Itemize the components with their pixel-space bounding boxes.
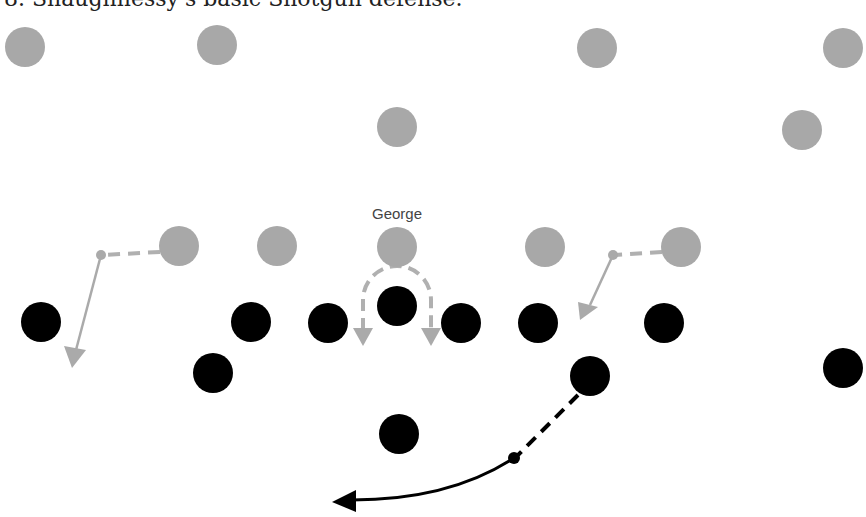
defender-2 [577, 28, 617, 68]
arrow-head-right-icon [578, 302, 598, 320]
route-dash-right [615, 252, 662, 255]
offensive-player-5 [518, 303, 558, 343]
offensive-player-3 [377, 286, 417, 326]
route-line-right [590, 255, 613, 305]
offensive-player-2 [308, 303, 348, 343]
play-diagram: George [0, 0, 866, 517]
arrow-head-offense-icon [332, 490, 356, 512]
route-dash-offense [518, 395, 578, 455]
route-curve-offense [352, 458, 514, 500]
defender-0 [5, 27, 45, 67]
arrow-head-left-icon [64, 346, 86, 368]
defender-4 [377, 107, 417, 147]
defense-players [5, 25, 863, 267]
offensive-player-6 [644, 303, 684, 343]
offensive-player-7 [193, 353, 233, 393]
defender-10 [661, 227, 701, 267]
offensive-player-4 [441, 303, 481, 343]
defender-6 [159, 226, 199, 266]
defender-1 [197, 25, 237, 65]
offensive-player-1 [231, 302, 271, 342]
route-dash-left [102, 252, 160, 255]
arrow-head-george-right-icon [421, 328, 441, 346]
offense-players [21, 286, 863, 454]
defender-9 [525, 227, 565, 267]
defender-3 [823, 28, 863, 68]
offensive-player-10 [379, 414, 419, 454]
offensive-player-0 [21, 302, 61, 342]
offensive-player-8 [570, 356, 610, 396]
defender-5 [782, 110, 822, 150]
route-line-left [76, 255, 101, 350]
player-label-george: George [372, 205, 422, 222]
defender-george [377, 227, 417, 267]
defense-routes [64, 250, 662, 368]
arrow-head-george-left-icon [353, 328, 373, 346]
offensive-player-9 [823, 348, 863, 388]
offense-route [332, 395, 578, 512]
defender-7 [257, 226, 297, 266]
